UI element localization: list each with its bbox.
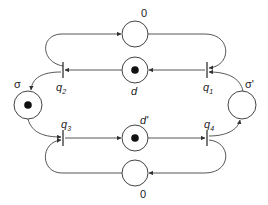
- place-d-label: d: [131, 85, 138, 97]
- arc-sigmaprime-to-q1: [209, 72, 243, 91]
- petri-net-diagram: 0 d d' 0 σ σ' q2 q1 q3 q4: [0, 0, 268, 205]
- place-top0: 0: [122, 7, 148, 47]
- transition-q4: q4: [204, 118, 214, 146]
- transition-q3-label: q3: [61, 118, 71, 132]
- place-sigma: σ: [14, 78, 42, 119]
- arc-bottom0-to-q3: [45, 140, 122, 173]
- arc-sigma-to-q3: [28, 119, 61, 137]
- place-dprime-label: d': [140, 114, 149, 126]
- token: [24, 101, 32, 109]
- transition-q3: q3: [61, 118, 71, 146]
- place-sigmaprime: σ': [228, 78, 256, 119]
- transition-q1: q1: [203, 62, 213, 95]
- place-top0-label: 0: [141, 7, 147, 19]
- arc-q2-to-top0: [46, 34, 121, 66]
- token: [131, 66, 139, 74]
- transition-q2-label: q2: [56, 81, 66, 95]
- place-d: d: [122, 57, 148, 97]
- arc-top0-to-q1: [148, 34, 226, 68]
- transition-q1-label: q1: [203, 81, 213, 95]
- place-sigmaprime-label: σ': [245, 78, 254, 90]
- arcs: [28, 34, 243, 173]
- place-bottom0-label: 0: [140, 188, 146, 200]
- transition-q4-label: q4: [204, 118, 214, 132]
- arc-q4-to-bottom0: [149, 140, 226, 173]
- place-bottom0: 0: [122, 160, 148, 200]
- token: [131, 134, 139, 142]
- transition-q2: q2: [56, 62, 66, 95]
- place-dprime: d': [122, 114, 149, 151]
- place-sigma-label: σ: [14, 78, 21, 90]
